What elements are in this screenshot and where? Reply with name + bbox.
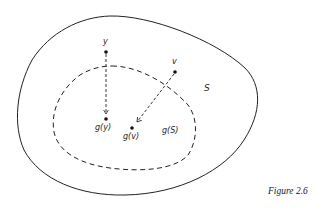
point-gv [130, 126, 134, 130]
set-gs-outline [53, 66, 195, 170]
set-s-outline [17, 16, 257, 195]
label-gy: g(y) [95, 123, 111, 132]
point-y [104, 50, 108, 54]
label-gv: g(v) [123, 132, 139, 141]
figure-caption: Figure 2.6 [268, 186, 308, 196]
label-v: v [172, 57, 177, 66]
arrow-v-to-gv [137, 74, 174, 122]
point-v [173, 70, 177, 74]
diagram-svg [0, 0, 332, 215]
label-y: y [103, 37, 108, 46]
point-gy [104, 117, 108, 121]
label-set-gs: g(S) [162, 126, 178, 135]
figure-canvas: y v S g(y) g(v) g(S) Figure 2.6 [0, 0, 332, 215]
label-set-s: S [204, 83, 210, 93]
